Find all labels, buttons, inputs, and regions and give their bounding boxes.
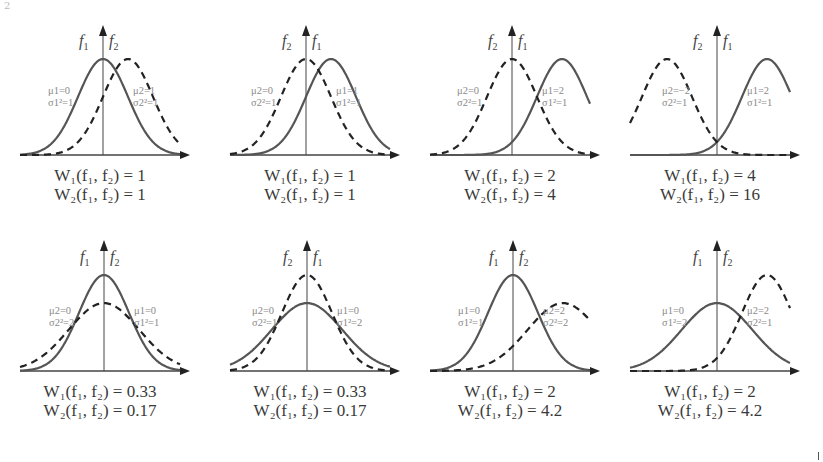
variance-label: σ1²=2 — [662, 317, 687, 329]
mean-label: μ1=2 — [542, 85, 567, 97]
mean-label: μ2=2 — [747, 305, 772, 317]
distance-values: W₁(f₁, f₂) = 1W₂(f₁, f₂) = 1 — [0, 166, 200, 204]
curve-label-right: f1 — [518, 32, 527, 52]
curve-label-left: f2 — [282, 32, 291, 52]
x-axis-arrow-icon — [180, 367, 190, 375]
params-left: μ2=0σ2²=2 — [49, 305, 74, 329]
curve-label-left: f2 — [693, 32, 702, 52]
params-left: μ1=0σ1²=2 — [662, 305, 687, 329]
params-right: μ1=0σ1²=1 — [134, 305, 159, 329]
distance-values: W₁(f₁, f₂) = 2W₂(f₁, f₂) = 4.2 — [610, 382, 810, 420]
curve-label-right: f2 — [109, 32, 118, 52]
w2-distance: W₂(f₁, f₂) = 0.17 — [210, 401, 410, 420]
mean-label: μ1=0 — [134, 305, 159, 317]
variance-label: σ2²=2 — [543, 317, 568, 329]
distribution-panel-4: f2f1μ2=−2σ2²=1μ1=2σ1²=1W₁(f₁, f₂) = 4W₂(… — [610, 0, 810, 220]
variance-label: σ1²=1 — [542, 97, 567, 109]
variance-label: σ2²=1 — [251, 97, 276, 109]
w1-distance: W₁(f₁, f₂) = 1 — [210, 166, 410, 185]
w1-distance: W₁(f₁, f₂) = 2 — [410, 382, 610, 401]
params-right: μ2=2σ2²=2 — [543, 305, 568, 329]
w2-distance: W₂(f₁, f₂) = 16 — [610, 185, 810, 204]
w1-distance: W₁(f₁, f₂) = 2 — [410, 166, 610, 185]
w2-distance: W₂(f₁, f₂) = 4.2 — [410, 401, 610, 420]
mean-label: μ2=2 — [543, 305, 568, 317]
mean-label: μ1=0 — [458, 305, 483, 317]
variance-label: σ2²=1 — [457, 97, 482, 109]
distribution-panel-7: f1f2μ1=0σ1²=1μ2=2σ2²=2W₁(f₁, f₂) = 2W₂(f… — [410, 230, 610, 450]
y-axis-arrow-icon — [303, 240, 311, 251]
x-axis-arrow-icon — [590, 151, 600, 159]
variance-label: σ1²=2 — [337, 317, 362, 329]
y-axis-arrow-icon — [713, 25, 721, 36]
curve-label-left: f1 — [80, 248, 89, 268]
params-left: μ2=0σ2²=1 — [252, 305, 277, 329]
w2-distance: W₂(f₁, f₂) = 4.2 — [610, 401, 810, 420]
curve-label-right: f1 — [313, 248, 322, 268]
distance-values: W₁(f₁, f₂) = 2W₂(f₁, f₂) = 4.2 — [410, 382, 610, 420]
curve-label-left: f1 — [79, 32, 88, 52]
mean-label: μ2=0 — [251, 85, 276, 97]
distance-values: W₁(f₁, f₂) = 0.33W₂(f₁, f₂) = 0.17 — [0, 382, 200, 420]
variance-label: σ1²=1 — [336, 97, 361, 109]
x-axis-arrow-icon — [390, 367, 400, 375]
w1-distance: W₁(f₁, f₂) = 0.33 — [0, 382, 200, 401]
mean-label: μ2=−2 — [662, 85, 690, 97]
params-left: μ2=0σ2²=1 — [457, 85, 482, 109]
variance-label: σ2²=1 — [662, 97, 690, 109]
w2-distance: W₂(f₁, f₂) = 4 — [410, 185, 610, 204]
distribution-panel-8: f1f2μ1=0σ1²=2μ2=2σ2²=1W₁(f₁, f₂) = 2W₂(f… — [610, 230, 810, 450]
mean-label: μ2=1 — [133, 85, 158, 97]
w2-distance: W₂(f₁, f₂) = 0.17 — [0, 401, 200, 420]
w1-distance: W₁(f₁, f₂) = 0.33 — [210, 382, 410, 401]
params-left: μ2=0σ2²=1 — [251, 85, 276, 109]
curve-label-left: f1 — [489, 248, 498, 268]
variance-label: σ1²=1 — [48, 97, 73, 109]
x-axis-arrow-icon — [790, 151, 800, 159]
curve-label-left: f2 — [488, 32, 497, 52]
params-left: μ1=0σ1²=1 — [48, 85, 73, 109]
y-axis-arrow-icon — [100, 240, 108, 251]
distribution-panel-5: f1f2μ2=0σ2²=2μ1=0σ1²=1W₁(f₁, f₂) = 0.33W… — [0, 230, 200, 450]
mean-label: μ1=2 — [747, 85, 772, 97]
distance-values: W₁(f₁, f₂) = 4W₂(f₁, f₂) = 16 — [610, 166, 810, 204]
w2-distance: W₂(f₁, f₂) = 1 — [0, 185, 200, 204]
curve-label-right: f1 — [312, 32, 321, 52]
params-right: μ1=1σ1²=1 — [336, 85, 361, 109]
y-axis-arrow-icon — [99, 25, 107, 36]
variance-label: σ2²=2 — [49, 317, 74, 329]
curve-label-left: f2 — [283, 248, 292, 268]
curve-label-right: f2 — [519, 248, 528, 268]
distance-values: W₁(f₁, f₂) = 2W₂(f₁, f₂) = 4 — [410, 166, 610, 204]
mean-label: μ2=0 — [49, 305, 74, 317]
variance-label: σ1²=1 — [458, 317, 483, 329]
mean-label: μ1=0 — [662, 305, 687, 317]
curve-label-left: f1 — [693, 248, 702, 268]
y-axis-arrow-icon — [508, 25, 516, 36]
curve-label-right: f1 — [723, 32, 732, 52]
distribution-panel-6: f2f1μ2=0σ2²=1μ1=0σ1²=2W₁(f₁, f₂) = 0.33W… — [210, 230, 410, 450]
params-right: μ2=1σ2²=1 — [133, 85, 158, 109]
params-left: μ2=−2σ2²=1 — [662, 85, 690, 109]
x-axis-arrow-icon — [790, 367, 800, 375]
params-right: μ1=0σ1²=2 — [337, 305, 362, 329]
variance-label: σ1²=1 — [747, 97, 772, 109]
variance-label: σ2²=1 — [133, 97, 158, 109]
variance-label: σ2²=1 — [252, 317, 277, 329]
w1-distance: W₁(f₁, f₂) = 1 — [0, 166, 200, 185]
distribution-panel-3: f2f1μ2=0σ2²=1μ1=2σ1²=1W₁(f₁, f₂) = 2W₂(f… — [410, 0, 610, 220]
y-axis-arrow-icon — [302, 25, 310, 36]
y-axis-arrow-icon — [713, 240, 721, 251]
x-axis-arrow-icon — [390, 151, 400, 159]
curve-label-right: f2 — [110, 248, 119, 268]
mean-label: μ1=1 — [336, 85, 361, 97]
page-tick-mark — [818, 452, 819, 460]
params-right: μ2=2σ2²=1 — [747, 305, 772, 329]
distance-values: W₁(f₁, f₂) = 1W₂(f₁, f₂) = 1 — [210, 166, 410, 204]
variance-label: σ2²=1 — [747, 317, 772, 329]
distribution-panel-2: f2f1μ2=0σ2²=1μ1=1σ1²=1W₁(f₁, f₂) = 1W₂(f… — [210, 0, 410, 220]
distance-values: W₁(f₁, f₂) = 0.33W₂(f₁, f₂) = 0.17 — [210, 382, 410, 420]
distribution-panel-1: f1f2μ1=0σ1²=1μ2=1σ2²=1W₁(f₁, f₂) = 1W₂(f… — [0, 0, 200, 220]
mean-label: μ1=0 — [337, 305, 362, 317]
mean-label: μ2=0 — [457, 85, 482, 97]
